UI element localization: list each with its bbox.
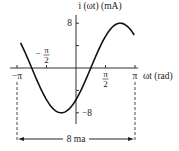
- x-axis-label: ωt (rad): [143, 71, 173, 82]
- x-tick-label: −π: [12, 71, 22, 81]
- x-tick-label-numerator: π: [44, 45, 49, 55]
- waveform-plot: −π−π2π2π8−8 i (ωt) (mA) ωt (rad) 8 ma: [0, 0, 179, 151]
- span-annotation: 8 ma: [67, 134, 87, 144]
- x-tick-label-sign: −: [35, 48, 40, 58]
- y-axis-label: i (ωt) (mA): [78, 1, 121, 12]
- arrowhead-left: [18, 137, 24, 141]
- x-tick-label: π: [133, 71, 138, 81]
- x-tick-label-denominator: 2: [44, 55, 49, 65]
- y-tick-label: 8: [67, 18, 72, 28]
- y-tick-label: −8: [82, 108, 92, 118]
- x-tick-label-denominator: 2: [103, 79, 108, 89]
- arrowhead-right: [128, 137, 134, 141]
- x-tick-label-numerator: π: [103, 69, 108, 79]
